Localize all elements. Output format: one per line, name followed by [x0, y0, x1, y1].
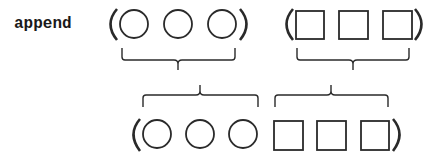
- brace-up-icon: [143, 85, 258, 107]
- square-element: [317, 121, 346, 150]
- open-paren: [134, 119, 141, 151]
- brace-down-icon: [297, 48, 409, 70]
- circle-element: [208, 10, 236, 38]
- square-element: [296, 11, 324, 39]
- circle-element: [229, 120, 257, 148]
- circle-element: [164, 10, 192, 38]
- first-list: [111, 9, 247, 40]
- close-paren: [240, 9, 247, 40]
- circle-element: [186, 120, 214, 148]
- square-element: [383, 11, 412, 39]
- circle-element: [120, 10, 148, 38]
- brace-down-icon: [122, 48, 235, 70]
- square-element: [361, 121, 389, 150]
- close-paren: [393, 119, 400, 151]
- close-paren: [415, 9, 422, 40]
- square-element: [274, 121, 303, 150]
- circle-element: [143, 120, 171, 148]
- open-paren: [287, 9, 294, 40]
- result-list: [134, 119, 400, 151]
- append-diagram: [0, 0, 436, 161]
- second-list: [287, 9, 422, 40]
- square-element: [339, 11, 368, 39]
- brace-up-icon: [275, 85, 388, 107]
- open-paren: [111, 9, 118, 40]
